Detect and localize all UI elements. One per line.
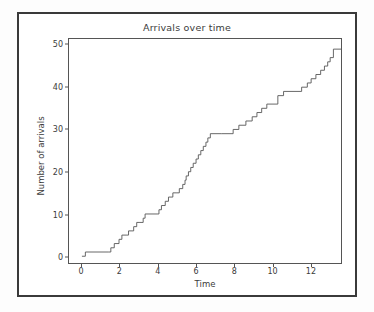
image-outer-frame: Arrivals over time Number of arrivals 01…: [17, 12, 357, 297]
arrivals-step-line: [82, 49, 341, 256]
x-axis-label: Time: [68, 279, 342, 289]
y-tick-label: 40: [53, 82, 63, 91]
x-tick-label: 0: [78, 267, 83, 276]
y-tick-label: 50: [53, 39, 63, 48]
y-tick-label: 30: [53, 125, 63, 134]
step-line-plot: [69, 39, 341, 263]
x-tick-label: 4: [155, 267, 160, 276]
plot-axes-area: [68, 38, 342, 264]
x-tick-label: 8: [232, 267, 237, 276]
x-tick-label: 2: [117, 267, 122, 276]
y-tick-label: 20: [53, 167, 63, 176]
x-tick-label: 6: [193, 267, 198, 276]
matplotlib-figure: Arrivals over time Number of arrivals 01…: [19, 14, 355, 295]
screenshot-root: Arrivals over time Number of arrivals 01…: [0, 0, 374, 312]
y-tick-label: 0: [58, 253, 63, 262]
chart-title: Arrivals over time: [19, 22, 355, 33]
x-tick-label: 10: [268, 267, 278, 276]
y-tick-label: 10: [53, 210, 63, 219]
y-axis-tick-labels: 01020304050: [43, 38, 63, 264]
x-tick-label: 12: [306, 267, 316, 276]
